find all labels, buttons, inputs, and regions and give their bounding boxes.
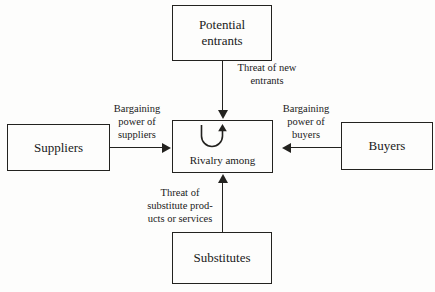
- node-buyers[interactable]: Buyers: [341, 122, 433, 170]
- node-substitutes-label: Substitutes: [193, 250, 250, 266]
- edge-label-threat-of-new-entrants: Threat of new entrants: [224, 61, 310, 87]
- node-rivalry-among-label: Rivalry among: [190, 154, 256, 167]
- node-rivalry-among[interactable]: Rivalry among: [172, 120, 273, 173]
- arrowhead-up-icon: [218, 174, 228, 183]
- arrowhead-right-icon: [162, 143, 171, 153]
- porters-five-forces-diagram: Potential entrants Suppliers Rivalry amo…: [0, 0, 435, 292]
- edge-label-bargaining-power-of-suppliers: Bargaining power of suppliers: [104, 102, 170, 141]
- node-potential-entrants-label: Potential entrants: [199, 17, 245, 49]
- edge-label-threat-of-substitute-products-or-services: Threat of substitute prod- ucts or servi…: [138, 186, 222, 225]
- arrowhead-left-icon: [282, 143, 291, 153]
- connector-substitutes-to-rivalry: [222, 183, 223, 232]
- node-suppliers-label: Suppliers: [34, 140, 83, 156]
- arrowhead-down-icon: [218, 110, 228, 119]
- node-buyers-label: Buyers: [369, 138, 406, 154]
- node-potential-entrants[interactable]: Potential entrants: [172, 5, 272, 61]
- connector-buyers-to-rivalry: [291, 147, 341, 148]
- connector-suppliers-to-rivalry: [110, 147, 163, 148]
- edge-label-bargaining-power-of-buyers: Bargaining power of buyers: [272, 102, 340, 141]
- node-substitutes[interactable]: Substitutes: [172, 232, 272, 284]
- node-suppliers[interactable]: Suppliers: [7, 124, 110, 171]
